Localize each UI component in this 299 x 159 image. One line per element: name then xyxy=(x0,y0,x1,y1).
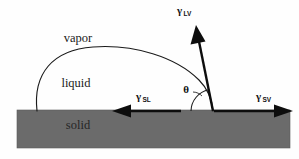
contact-angle-symbol: θ xyxy=(183,83,189,95)
gamma-sv-symbol: γ xyxy=(255,90,261,102)
gamma-sv-subscript: SV xyxy=(263,96,272,103)
contact-angle-figure: vapor liquid solid γ LV γ SL γ SV θ xyxy=(0,0,299,159)
vapor-label: vapor xyxy=(64,31,93,45)
gamma-lv-symbol: γ xyxy=(176,4,182,16)
solid-substrate-block xyxy=(17,110,290,148)
diagram-canvas: vapor liquid solid γ LV γ SL γ SV θ xyxy=(0,0,299,159)
gamma-lv-subscript: LV xyxy=(184,10,192,17)
gamma-sl-symbol: γ xyxy=(135,90,141,102)
gamma-sl-subscript: SL xyxy=(143,96,151,103)
liquid-label: liquid xyxy=(61,76,91,90)
solid-label: solid xyxy=(66,118,91,132)
